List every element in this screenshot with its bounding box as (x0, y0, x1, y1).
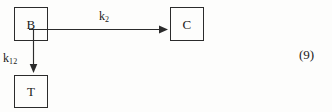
rate-label-k2: k2 (99, 10, 109, 22)
equation-number: (9) (299, 48, 314, 61)
rate-label-k12-subscript: 12 (9, 57, 18, 66)
node-box-t: T (14, 75, 48, 108)
rate-label-k12: k12 (3, 52, 18, 64)
kinetic-model-diagram: B C T k2 k12 (9) (0, 0, 332, 112)
node-box-b: B (14, 7, 48, 41)
arrow-head-b-to-t (30, 64, 38, 73)
node-label-t: T (27, 85, 35, 98)
node-label-b: B (27, 18, 36, 31)
node-box-c: C (170, 7, 204, 41)
arrow-head-b-to-c (159, 26, 168, 34)
node-label-c: C (183, 18, 192, 31)
rate-label-k2-subscript: 2 (105, 15, 109, 24)
arrow-layer (0, 0, 332, 112)
